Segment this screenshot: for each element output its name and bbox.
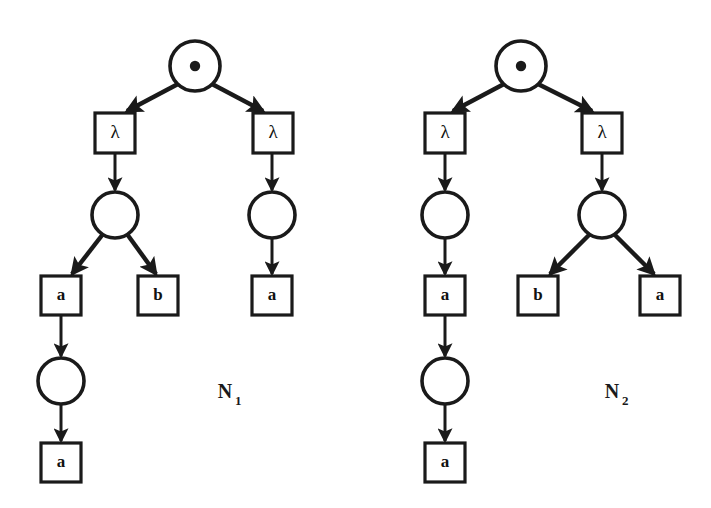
token-dot-icon — [516, 61, 526, 71]
node-label-n1-a1: a — [57, 285, 66, 304]
node-circle-n2-circ-r — [579, 192, 625, 238]
node-n2-root — [496, 41, 546, 91]
edge-n1-circ-l-to-n1-b1 — [127, 234, 156, 274]
node-label-n2-b1: b — [533, 285, 542, 304]
node-n2-a3: a — [425, 443, 465, 482]
node-n2-circ-b — [422, 358, 468, 404]
edge-n1-root-to-n1-lam-l — [127, 84, 178, 111]
node-n2-circ-l — [422, 192, 468, 238]
node-n2-circ-r — [579, 192, 625, 238]
tree-name-main: N — [218, 380, 233, 402]
process-tree-diagram: λλabaaλλabaa N1N2 — [0, 0, 711, 508]
edge-n1-circ-l-to-n1-a1 — [72, 234, 103, 274]
node-label-n2-a2: a — [656, 285, 665, 304]
edge-n1-root-to-n1-lam-r — [212, 84, 263, 111]
node-n2-b1: b — [518, 276, 558, 315]
node-circle-n2-circ-b — [422, 358, 468, 404]
node-circle-n2-circ-l — [422, 192, 468, 238]
edge-n2-root-to-n2-lam-l — [453, 84, 504, 111]
diagram-canvas: λλabaaλλabaa N1N2 — [0, 0, 711, 508]
node-n1-circ-b — [38, 358, 84, 404]
node-n2-lam-r: λ — [582, 113, 622, 153]
node-label-n1-b1: b — [153, 285, 162, 304]
token-dot-icon — [190, 61, 200, 71]
node-n1-lam-l: λ — [95, 113, 135, 153]
node-label-n1-a2: a — [268, 285, 277, 304]
tree-name-N2: N2 — [605, 380, 629, 408]
tree-name-N1: N1 — [218, 380, 242, 408]
node-label-n2-a3: a — [441, 452, 450, 471]
node-label-n2-lam-l: λ — [440, 121, 450, 142]
tree-name-subscript: 2 — [622, 393, 629, 408]
edges-layer — [61, 84, 654, 441]
node-n1-b1: b — [138, 276, 178, 315]
edge-n2-root-to-n2-lam-r — [538, 84, 592, 111]
node-n1-lam-r: λ — [253, 113, 293, 153]
node-label-n2-a1: a — [441, 285, 450, 304]
node-n1-circ-l — [92, 192, 138, 238]
node-n2-a1: a — [425, 276, 465, 315]
node-n2-lam-l: λ — [425, 113, 465, 153]
node-label-n1-lam-r: λ — [268, 121, 278, 142]
edge-n2-circ-r-to-n2-a2 — [614, 234, 654, 274]
node-label-n2-lam-r: λ — [597, 121, 607, 142]
node-label-n1-lam-l: λ — [110, 121, 120, 142]
node-n2-a2: a — [640, 276, 680, 315]
node-n1-circ-r — [249, 192, 295, 238]
tree-name-main: N — [605, 380, 620, 402]
node-n1-root — [170, 41, 220, 91]
tree-name-subscript: 1 — [235, 393, 242, 408]
node-n1-a3: a — [41, 443, 81, 482]
node-circle-n1-circ-l — [92, 192, 138, 238]
node-n1-a1: a — [41, 276, 81, 315]
node-circle-n1-circ-r — [249, 192, 295, 238]
node-label-n1-a3: a — [57, 452, 66, 471]
node-circle-n1-circ-b — [38, 358, 84, 404]
edge-n2-circ-r-to-n2-b1 — [550, 234, 590, 274]
node-n1-a2: a — [252, 276, 292, 315]
